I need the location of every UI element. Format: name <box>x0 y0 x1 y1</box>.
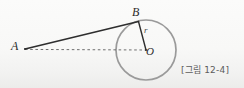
label-point-a: A <box>11 40 18 52</box>
tangent-segment-a-to-b <box>25 22 139 50</box>
label-center-o: O <box>146 46 154 57</box>
figure-caption: [그림 12-4] <box>181 63 229 76</box>
point-marker-a <box>24 48 26 50</box>
dashed-line-a-to-o <box>25 49 146 50</box>
label-point-b: B <box>132 6 139 18</box>
geometry-figure: A B O r [그림 12-4] <box>0 0 244 88</box>
label-radius-r: r <box>144 26 148 35</box>
